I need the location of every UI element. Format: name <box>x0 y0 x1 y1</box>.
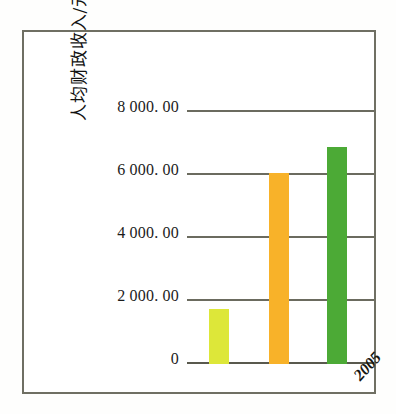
y-axis-title: 人均财政收入/元 <box>66 0 92 146</box>
y-tick-label-0: 0 <box>171 350 179 368</box>
plot-area: 8 000. 00 6 000. 00 4 000. 00 2 000. 00 … <box>187 110 374 364</box>
bar-2005[interactable] <box>209 309 229 364</box>
gridline-8000 <box>187 110 374 112</box>
y-tick-label-8000: 8 000. 00 <box>117 98 179 116</box>
bar-2016[interactable] <box>327 147 347 364</box>
y-tick-label-2000: 2 000. 00 <box>117 287 179 305</box>
chart-frame-border: 人均财政收入/元 8 000. 00 6 000. 00 4 000. 00 2… <box>22 30 376 394</box>
bar-2010[interactable] <box>269 173 289 364</box>
x-tick-label-2005: 2005 <box>350 349 385 385</box>
chart-figure: 人均财政收入/元 8 000. 00 6 000. 00 4 000. 00 2… <box>0 0 396 414</box>
y-tick-label-6000: 6 000. 00 <box>117 161 179 179</box>
y-tick-label-4000: 4 000. 00 <box>117 224 179 242</box>
